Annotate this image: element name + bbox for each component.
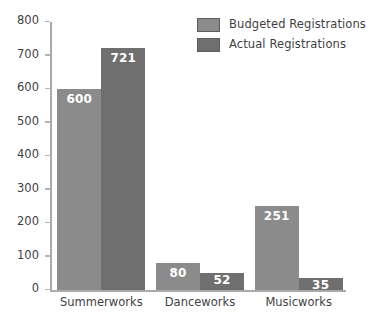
- bar-value-label: 35: [299, 279, 343, 291]
- bar-value-label: 251: [255, 210, 299, 222]
- bar-group: 25135: [255, 22, 343, 290]
- bar: 35: [299, 278, 343, 290]
- y-tick-label: 800: [17, 16, 39, 28]
- plot-area: 0100200300400500600700800 60072180522513…: [50, 22, 350, 292]
- bar: 251: [255, 206, 299, 290]
- bar: 721: [101, 48, 145, 290]
- y-tick: 600: [45, 88, 50, 90]
- y-tick: 400: [45, 155, 50, 157]
- y-tick: 100: [45, 255, 50, 257]
- y-tick-label: 200: [17, 217, 39, 229]
- bar-value-label: 52: [200, 274, 244, 286]
- bar-chart: Budgeted Registrations Actual Registrati…: [0, 0, 380, 323]
- bar-value-label: 600: [57, 93, 101, 105]
- y-tick: 0: [45, 289, 50, 291]
- bar: 80: [156, 263, 200, 290]
- y-tick-label: 400: [17, 150, 39, 162]
- bar: 52: [200, 273, 244, 290]
- y-tick: 500: [45, 121, 50, 123]
- y-tick-label: 300: [17, 183, 39, 195]
- y-tick-label: 0: [32, 284, 39, 296]
- bar-value-label: 80: [156, 267, 200, 279]
- bar-group: 600721: [57, 22, 145, 290]
- y-tick-label: 700: [17, 49, 39, 61]
- bar: 600: [57, 89, 101, 290]
- y-tick: 800: [45, 21, 50, 23]
- x-axis-label: Summerworks: [52, 297, 151, 309]
- bar-group: 8052: [156, 22, 244, 290]
- bars-layer: 600721805225135: [52, 22, 348, 290]
- y-tick-label: 100: [17, 250, 39, 262]
- y-tick: 700: [45, 54, 50, 56]
- x-axis-label: Musicworks: [249, 297, 348, 309]
- x-axis-label: Danceworks: [151, 297, 250, 309]
- y-tick-label: 500: [17, 116, 39, 128]
- y-tick: 200: [45, 222, 50, 224]
- y-tick: 300: [45, 188, 50, 190]
- y-tick-label: 600: [17, 83, 39, 95]
- bar-value-label: 721: [101, 52, 145, 64]
